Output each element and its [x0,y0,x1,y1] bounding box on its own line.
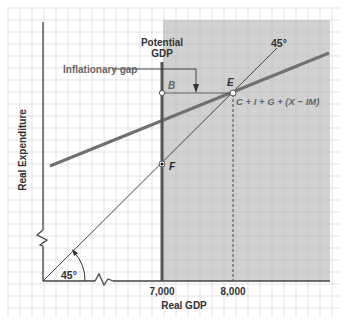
y-axis-label: Real Expenditure [17,109,28,191]
x-tick-7000: 7,000 [149,286,174,297]
point-f-dot [161,163,164,166]
potential-gdp-label-2: GDP [151,48,173,59]
point-e-label: E [227,77,234,88]
x-tick-8000: 8,000 [220,286,245,297]
x-axis-label: Real GDP [161,300,207,311]
inflationary-gap-label: Inflationary gap [63,64,137,75]
forty-five-angle-label: 45° [61,269,77,281]
point-b-label: B [168,80,175,91]
point-b-marker [159,90,164,95]
inflationary-gap-diagram: Potential GDP Inflationary gap B E F C +… [0,0,345,325]
forty-five-top-label: 45° [271,37,287,49]
potential-gdp-label-1: Potential [141,37,183,48]
shaded-region [163,20,330,281]
ae-curve-label: C + I + G + (X − IM) [236,96,319,107]
point-f-label: F [169,161,176,172]
